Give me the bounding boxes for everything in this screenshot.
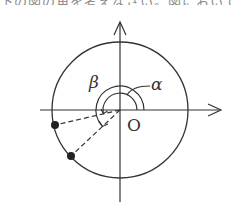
origin-label: O — [127, 115, 141, 135]
beta-label: β — [88, 72, 99, 92]
point-1 — [51, 121, 59, 129]
angle-diagram: β α O — [0, 0, 234, 206]
alpha-leader-line — [127, 86, 150, 95]
dashed-radius-2 — [71, 110, 120, 156]
point-2 — [67, 152, 75, 160]
alpha-label: α — [151, 74, 163, 94]
dashed-radius-1 — [55, 110, 120, 125]
